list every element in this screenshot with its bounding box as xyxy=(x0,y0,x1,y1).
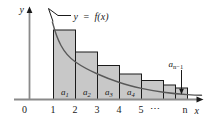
x-tick-3: 3 xyxy=(95,104,100,115)
x-tick-n: n xyxy=(183,104,188,115)
x-tick-5: 5 xyxy=(139,104,144,115)
svg-text:y = f(x): y = f(x) xyxy=(73,11,110,23)
bar-label-a1-sub: 1 xyxy=(66,91,69,98)
function-label-fx: f(x) xyxy=(95,11,110,23)
function-label-y: y xyxy=(73,11,79,22)
function-label-leader xyxy=(49,9,72,22)
x-tick-ellipsis: ⋯ xyxy=(150,103,160,114)
callout-label-sub: n−1 xyxy=(173,63,183,70)
y-axis-arrowhead xyxy=(27,7,33,14)
integral-test-figure: y x y = f(x) 0 1 2 3 4 5 ⋯ n a1 xyxy=(0,0,213,123)
x-tick-2: 2 xyxy=(73,104,78,115)
bar-group xyxy=(54,30,188,100)
function-label-equals: = xyxy=(83,11,89,22)
x-tick-labels: 0 1 2 3 4 5 ⋯ n xyxy=(22,103,188,115)
callout-label-an-1: an−1 xyxy=(169,59,184,70)
x-tick-0: 0 xyxy=(22,104,27,115)
y-axis-label: y xyxy=(19,4,25,15)
function-label: y = f(x) xyxy=(73,11,110,23)
x-tick-4: 4 xyxy=(117,104,122,115)
x-tick-1: 1 xyxy=(51,104,56,115)
x-axis-arrowhead xyxy=(197,96,204,102)
x-axis-label: x xyxy=(194,105,200,116)
